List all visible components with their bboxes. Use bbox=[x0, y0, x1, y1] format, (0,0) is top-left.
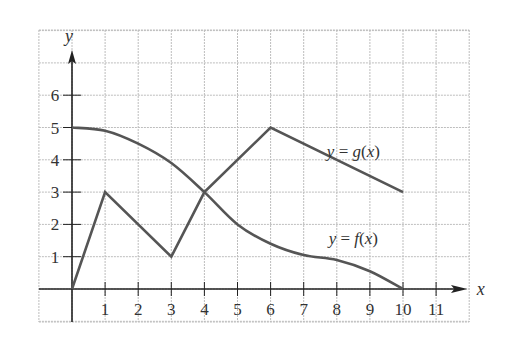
y-axis-label: y bbox=[63, 26, 73, 46]
x-tick-label: 8 bbox=[333, 300, 342, 319]
ticks: 1234567891011123456 bbox=[51, 86, 445, 319]
x-axis-label: x bbox=[476, 279, 485, 299]
y-tick-label: 1 bbox=[51, 248, 60, 267]
y-tick-label: 4 bbox=[51, 151, 60, 170]
chart: 1234567891011123456 y = f(x)y = g(x)xy bbox=[0, 0, 531, 337]
labels: y = f(x)y = g(x)xy bbox=[63, 26, 485, 299]
y-tick-label: 2 bbox=[51, 215, 60, 234]
x-tick-label: 7 bbox=[299, 300, 308, 319]
x-tick-label: 3 bbox=[167, 300, 176, 319]
x-tick-label: 6 bbox=[266, 300, 275, 319]
y-tick-label: 6 bbox=[51, 86, 60, 105]
y-tick-label: 5 bbox=[51, 119, 60, 138]
x-tick-label: 5 bbox=[233, 300, 242, 319]
curve-label-ygx: y = g(x) bbox=[325, 142, 380, 161]
x-tick-label: 10 bbox=[395, 300, 412, 319]
x-tick-label: 9 bbox=[366, 300, 375, 319]
x-tick-label: 1 bbox=[101, 300, 110, 319]
x-tick-label: 2 bbox=[134, 300, 143, 319]
y-tick-label: 3 bbox=[51, 183, 60, 202]
x-tick-label: 4 bbox=[200, 300, 209, 319]
x-tick-label: 11 bbox=[428, 300, 444, 319]
grid bbox=[39, 30, 469, 322]
curve-label-yfx: y = f(x) bbox=[327, 229, 378, 248]
